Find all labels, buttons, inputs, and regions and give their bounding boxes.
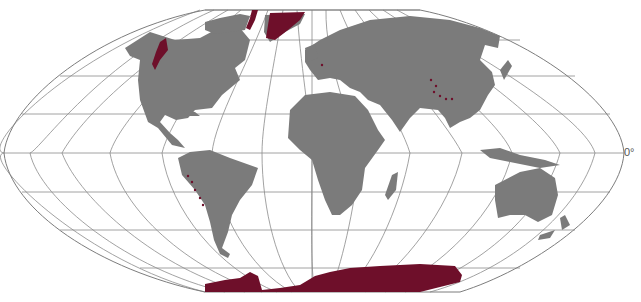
himalaya-glacier <box>445 98 447 100</box>
himalaya-glacier <box>451 98 453 100</box>
alps-glacier <box>321 64 323 66</box>
himalaya-glacier <box>433 91 435 93</box>
himalaya-glacier <box>430 79 432 81</box>
andes-glacier <box>199 197 201 199</box>
himalaya-glacier <box>439 95 441 97</box>
andes-glacier <box>202 204 204 206</box>
himalaya-glacier <box>435 85 437 87</box>
andes-glacier <box>187 175 189 177</box>
new-zealand-south <box>538 230 555 240</box>
africa <box>288 92 385 215</box>
new-zealand-north <box>560 215 570 230</box>
japan <box>500 60 512 80</box>
north-america <box>125 28 250 148</box>
south-america <box>178 150 258 258</box>
equator-label: 0° <box>624 146 635 158</box>
world-map <box>0 0 641 302</box>
canadian-arctic-islands <box>205 14 250 34</box>
indonesia <box>480 148 560 168</box>
madagascar <box>385 172 398 200</box>
andes-glacier <box>194 189 196 191</box>
landmasses <box>125 14 570 258</box>
andes-glacier <box>191 181 193 183</box>
